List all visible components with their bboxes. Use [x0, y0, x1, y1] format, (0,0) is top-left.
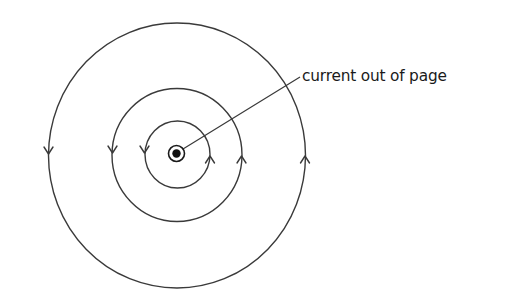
field-lines-diagram — [0, 0, 509, 297]
arrow-down-icon — [140, 146, 149, 153]
wire-dot-icon — [172, 149, 180, 157]
leader-line — [183, 77, 300, 149]
current-direction-label: current out of page — [302, 66, 447, 85]
